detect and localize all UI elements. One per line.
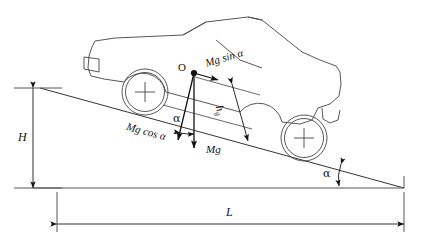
rear-wheel (122, 69, 168, 115)
base-length-label: L (226, 206, 233, 218)
angle-arc-origin (180, 133, 194, 134)
front-wheel (281, 115, 327, 161)
angle-arc-base (338, 164, 341, 186)
cg-height-dimension (232, 84, 248, 141)
inclined-plane-surface (40, 88, 404, 188)
inclined-plane-figure: O Mg sin α Mg cos α Mg hg H L α α (0, 0, 422, 247)
origin-point-label: O (178, 62, 186, 73)
figure-canvas (0, 0, 422, 247)
slope-component-vector (194, 73, 218, 80)
weight-label: Mg (206, 144, 221, 155)
incline-height-label: H (18, 131, 27, 143)
ground-baseline (33, 176, 404, 188)
origin-angle-label: α (173, 113, 180, 124)
base-angle-label: α (323, 168, 330, 179)
